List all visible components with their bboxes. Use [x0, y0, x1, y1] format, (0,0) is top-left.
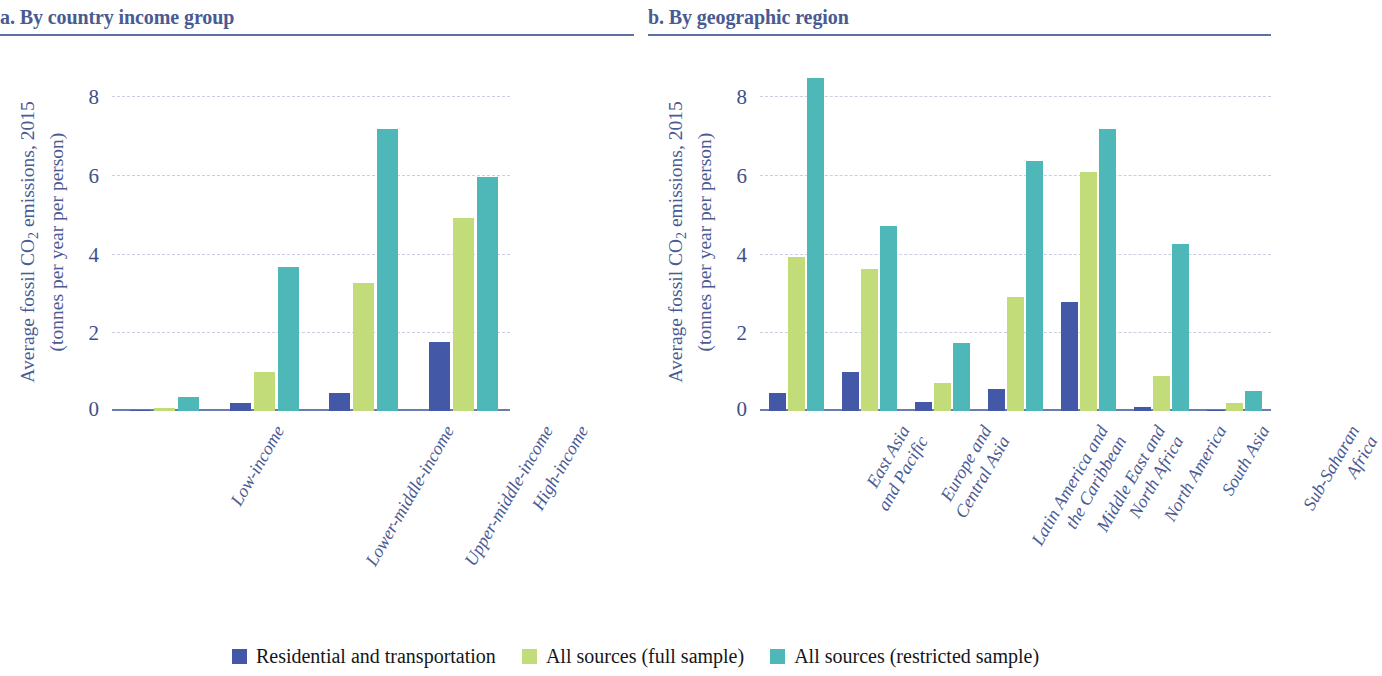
legend-swatch-all-sources-full-icon	[522, 649, 537, 664]
bar-all-full	[934, 383, 951, 411]
bar-all-restricted	[1245, 391, 1262, 411]
bar-all-restricted	[178, 397, 199, 411]
legend-label-all-sources-restricted: All sources (restricted sample)	[794, 645, 1039, 668]
xlabel-lower-middle-income: Lower-middle-income	[361, 422, 458, 570]
panel-a: Average fossil CO2 emissions, 2015 (tonn…	[0, 50, 634, 640]
bar-all-restricted	[477, 177, 498, 411]
panel-b-title-rule	[648, 34, 1271, 36]
bar-residential	[329, 393, 350, 411]
legend-item-all-sources-full: All sources (full sample)	[522, 645, 744, 668]
ytick-8: 8	[89, 85, 113, 110]
bar-residential	[1207, 410, 1224, 411]
ytick-0: 0	[737, 397, 761, 422]
bar-all-full	[1153, 376, 1170, 411]
bar-group-sub-saharan-africa	[1198, 96, 1271, 411]
ytick-4: 4	[737, 242, 761, 267]
bar-residential	[230, 403, 251, 411]
panel-b-plot-area: 8 6 4 2 0	[760, 96, 1271, 411]
bar-group-north-america	[1052, 96, 1125, 411]
bar-all-restricted	[1026, 161, 1043, 411]
panel-b-bars	[760, 96, 1271, 411]
bar-group-europe-and-central-asia	[833, 96, 906, 411]
bar-all-restricted	[1099, 129, 1116, 411]
panel-a-plot-area: 8 6 4 2 0	[112, 96, 510, 411]
bar-residential	[915, 402, 932, 411]
bar-group-lower-middle-income	[212, 96, 312, 411]
bar-group-low-income	[112, 96, 212, 411]
legend-label-all-sources-full: All sources (full sample)	[546, 645, 744, 668]
xlabel-europe-and-central-asia: Europe and Central Asia	[933, 422, 1015, 522]
chart-legend: Residential and transportation All sourc…	[0, 645, 1271, 668]
bar-residential	[769, 393, 786, 411]
panel-a-y-axis-label-line1: Average fossil CO2 emissions, 2015	[17, 101, 38, 382]
bar-group-high-income	[411, 96, 511, 411]
bar-group-south-asia	[1125, 96, 1198, 411]
bar-group-latin-america-and-the-caribbean	[906, 96, 979, 411]
legend-swatch-all-sources-restricted-icon	[770, 649, 785, 664]
panel-a-y-axis-label-line2: (tonnes per year per person)	[45, 62, 68, 422]
xlabel-line: Low-income	[227, 422, 290, 510]
bar-residential	[130, 410, 151, 411]
bar-group-east-asia-and-pacific	[760, 96, 833, 411]
bar-all-full	[788, 257, 805, 411]
bar-all-full	[353, 283, 374, 411]
bar-all-full	[154, 408, 175, 411]
bar-all-full	[453, 218, 474, 411]
bar-all-full	[1226, 403, 1243, 411]
panel-b-y-axis-label: Average fossil CO2 emissions, 2015 (tonn…	[664, 62, 716, 422]
xlabel-line: Lower-middle-income	[361, 422, 458, 570]
ytick-6: 6	[89, 163, 113, 188]
bar-group-middle-east-and-north-africa	[979, 96, 1052, 411]
bar-all-restricted	[953, 343, 970, 411]
bar-residential	[1061, 302, 1078, 412]
legend-label-residential: Residential and transportation	[256, 645, 496, 668]
ytick-8: 8	[737, 85, 761, 110]
panel-b-title: b. By geographic region	[648, 4, 1271, 30]
panel-b-y-axis-label-line2: (tonnes per year per person)	[693, 62, 716, 422]
legend-swatch-residential-icon	[232, 649, 247, 664]
panel-a-title-rule	[0, 34, 634, 36]
bar-all-full	[1007, 297, 1024, 411]
ytick-2: 2	[89, 321, 113, 346]
bar-all-restricted	[1172, 244, 1189, 411]
bar-all-restricted	[880, 226, 897, 411]
ytick-6: 6	[737, 163, 761, 188]
panel-a-title: a. By country income group	[0, 4, 634, 30]
ytick-4: 4	[89, 242, 113, 267]
bar-residential	[1134, 407, 1151, 411]
xlabel-low-income: Low-income	[227, 422, 290, 510]
bar-all-restricted	[278, 267, 299, 411]
bar-residential	[429, 342, 450, 411]
bar-residential	[842, 372, 859, 411]
bar-group-upper-middle-income	[311, 96, 411, 411]
xlabel-sub-saharan-africa: Sub-Saharan Africa	[1299, 422, 1382, 524]
panel-a-bars	[112, 96, 510, 411]
bar-all-restricted	[807, 78, 824, 411]
ytick-2: 2	[737, 321, 761, 346]
bar-all-restricted	[377, 129, 398, 411]
bar-residential	[988, 389, 1005, 411]
panel-b-header: b. By geographic region	[648, 4, 1271, 36]
panel-a-y-axis-label: Average fossil CO2 emissions, 2015 (tonn…	[16, 62, 68, 422]
panel-b: Average fossil CO2 emissions, 2015 (tonn…	[648, 50, 1271, 640]
ytick-0: 0	[89, 397, 113, 422]
legend-item-all-sources-restricted: All sources (restricted sample)	[770, 645, 1039, 668]
bar-all-full	[861, 269, 878, 411]
panel-a-header: a. By country income group	[0, 4, 634, 36]
bar-all-full	[1080, 172, 1097, 411]
panel-b-y-axis-label-line1: Average fossil CO2 emissions, 2015	[665, 101, 686, 382]
xlabel-east-asia-and-pacific: East Asia and Pacific	[855, 422, 933, 514]
bar-all-full	[254, 372, 275, 411]
legend-item-residential: Residential and transportation	[232, 645, 496, 668]
